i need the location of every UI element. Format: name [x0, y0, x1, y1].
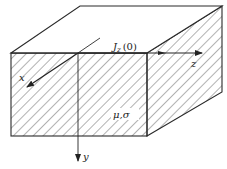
y-axis-label: y: [82, 151, 89, 162]
z-axis-label: z: [190, 58, 197, 69]
front-face: [11, 53, 147, 136]
conducting-block-diagram: Jz(0) z x y μ,σ: [0, 0, 227, 169]
x-axis-label: x: [19, 72, 25, 83]
material-properties-label: μ,σ: [113, 109, 131, 120]
